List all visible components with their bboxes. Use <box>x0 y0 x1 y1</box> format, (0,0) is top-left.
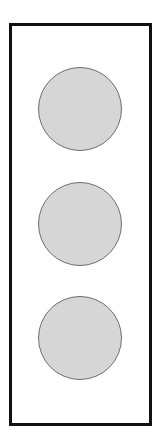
circle-bottom <box>38 296 122 380</box>
circle-middle <box>38 182 122 266</box>
circle-top <box>38 67 122 151</box>
